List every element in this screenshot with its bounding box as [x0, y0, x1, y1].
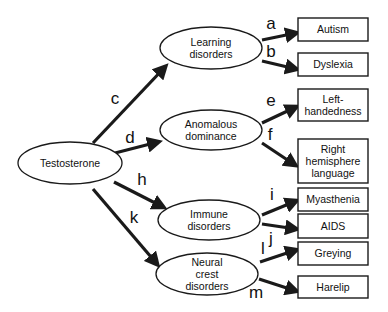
edge-label-l: l: [261, 239, 265, 258]
node-label-line: hemisphere: [306, 155, 361, 167]
box-right-hemisphere: Righthemispherelanguage: [298, 139, 368, 183]
node-label-line: Autism: [317, 23, 349, 35]
arrow-d: [115, 142, 158, 153]
edge-label-j: j: [268, 229, 273, 248]
node-label-line: AIDS: [321, 220, 346, 232]
arrow-l: [260, 250, 296, 262]
node-label-line: disorders: [185, 280, 228, 292]
node-label-line: Myasthenia: [306, 193, 360, 205]
box-harelip: Harelip: [298, 276, 368, 298]
arrow-b: [262, 61, 296, 69]
node-label-line: Harelip: [316, 281, 349, 293]
edge-label-d: d: [125, 128, 134, 147]
arrow-i: [262, 201, 296, 215]
edge-label-h: h: [137, 170, 146, 189]
box-autism: Autism: [298, 18, 368, 41]
box-greying: Greying: [298, 242, 368, 265]
node-label-line: Left-: [322, 93, 344, 105]
arrow-m: [259, 279, 296, 291]
box-dyslexia: Dyslexia: [298, 53, 368, 76]
node-label-line: Learning: [191, 36, 232, 48]
box-left-handedness: Left-handedness: [298, 89, 368, 121]
node-learning: Learningdisorders: [160, 27, 262, 69]
node-testosterone: Testosterone: [18, 142, 122, 184]
edges: [93, 33, 296, 291]
node-label-line: Neural: [192, 256, 223, 268]
node-label-line: disorders: [189, 48, 232, 60]
arrow-f: [262, 143, 295, 165]
node-label-line: Greying: [315, 247, 352, 259]
edge-label-m: m: [249, 283, 263, 302]
arrow-a: [262, 33, 296, 40]
node-label: Testosterone: [40, 157, 100, 169]
edge-label-f: f: [268, 125, 273, 144]
node-label-line: Anomalous: [185, 118, 238, 130]
node-neural: Neuralcrestdisorders: [156, 253, 258, 295]
box-myasthenia: Myasthenia: [298, 188, 368, 211]
node-label-line: Right: [321, 143, 346, 155]
node-label-line: handedness: [304, 105, 361, 117]
node-label-line: crest: [196, 268, 219, 280]
edge-label-c: c: [111, 89, 120, 108]
edge-label-e: e: [266, 91, 275, 110]
edge-label-k: k: [130, 208, 139, 227]
node-immune: Immunedisorders: [158, 200, 260, 240]
node-label-line: Dyslexia: [313, 58, 353, 70]
nodes: TestosteroneLearningdisordersAnomalousdo…: [18, 18, 368, 298]
testosterone-effects-diagram: TestosteroneLearningdisordersAnomalousdo…: [0, 0, 388, 312]
node-anomalous: Anomalousdominance: [160, 110, 262, 150]
node-label-line: Immune: [190, 208, 228, 220]
arrow-j: [262, 224, 296, 229]
node-label-line: disorders: [187, 220, 230, 232]
edge-label-a: a: [266, 14, 276, 33]
edge-label-b: b: [266, 42, 275, 61]
node-label-line: language: [311, 167, 354, 179]
node-label-line: dominance: [185, 130, 237, 142]
edge-label-i: i: [270, 185, 274, 204]
box-aids: AIDS: [298, 214, 368, 238]
